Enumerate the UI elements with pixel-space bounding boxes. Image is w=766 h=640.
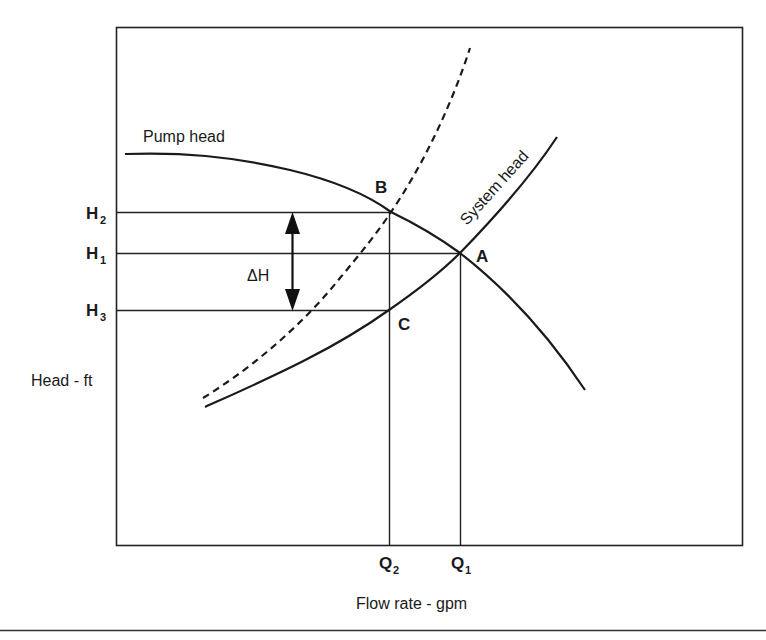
svg-text:H: H bbox=[86, 301, 98, 320]
point-b-label: B bbox=[375, 178, 387, 197]
svg-text:1: 1 bbox=[465, 564, 471, 576]
svg-text:H: H bbox=[86, 204, 98, 223]
throttled-system-head-curve bbox=[203, 48, 470, 398]
pump-system-curve-chart: Pump head System head B A C ΔH H 2 H 1 H… bbox=[0, 0, 766, 640]
x-tick-q1: Q 1 bbox=[451, 554, 471, 576]
svg-text:Q: Q bbox=[451, 554, 464, 573]
y-tick-h1: H 1 bbox=[86, 244, 106, 266]
svg-text:2: 2 bbox=[100, 214, 106, 226]
arrow-up-head-icon bbox=[285, 212, 300, 234]
x-tick-q2: Q 2 bbox=[379, 554, 399, 576]
delta-h-label: ΔH bbox=[247, 267, 269, 284]
arrow-down-head-icon bbox=[285, 289, 300, 311]
y-axis-label: Head - ft bbox=[31, 372, 93, 389]
point-a-label: A bbox=[476, 247, 488, 266]
pump-head-curve bbox=[125, 154, 585, 390]
y-tick-h2: H 2 bbox=[86, 204, 106, 226]
delta-h-arrow bbox=[285, 212, 300, 311]
pump-head-label: Pump head bbox=[143, 128, 225, 145]
svg-text:Q: Q bbox=[379, 554, 392, 573]
svg-text:2: 2 bbox=[393, 564, 399, 576]
y-tick-h3: H 3 bbox=[86, 301, 106, 323]
point-c-label: C bbox=[398, 315, 410, 334]
svg-text:3: 3 bbox=[100, 311, 106, 323]
plot-frame bbox=[117, 28, 743, 546]
svg-text:H: H bbox=[86, 244, 98, 263]
x-axis-label: Flow rate - gpm bbox=[356, 595, 467, 612]
svg-text:1: 1 bbox=[100, 254, 106, 266]
